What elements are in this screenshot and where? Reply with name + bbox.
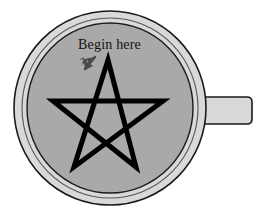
figure-canvas: Begin here [0,0,261,216]
begin-here-label: Begin here [78,37,141,52]
mug-diagram: Begin here [0,0,261,216]
